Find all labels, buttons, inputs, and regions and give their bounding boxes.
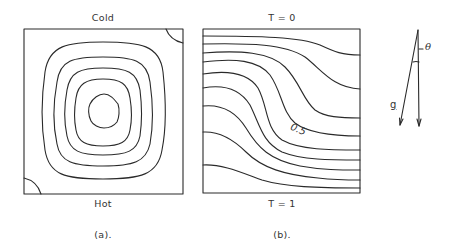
theta-arc [413,62,419,63]
isotherm-5 [203,72,360,150]
panel-a-top-label: Cold [92,12,114,23]
theta-label: θ [425,41,431,52]
figure-svg [0,0,449,251]
panel-b-frame [203,29,360,193]
isotherm-3 [203,52,360,118]
streamline-4 [75,79,132,146]
panel-b-isotherms [203,29,360,193]
panel-a-bottom-label: Hot [94,198,112,209]
isotherm-4-0.5 [203,60,360,136]
gravity-label: g [390,99,396,110]
gravity-diagram [400,30,424,126]
isotherm-2 [203,44,360,89]
corner-cell-bottom-left [24,178,41,194]
streamline-3 [65,68,142,155]
panel-a-frame [24,29,183,194]
panel-a-caption: (a). [94,229,111,240]
panel-b-bottom-label: T = 1 [268,198,295,209]
panel-a-streamlines [24,29,183,194]
streamline-core [89,94,119,128]
panel-b-caption: (b). [273,229,291,240]
figure: Cold Hot (a). T = 0 T = 1 (b). 0.5 θ g [0,0,449,251]
panel-b-top-label: T = 0 [268,12,295,23]
isotherm-6 [203,87,360,160]
corner-cell-top-right [166,29,183,43]
streamline-1 [42,42,165,179]
streamline-2 [54,57,152,166]
isotherm-9 [203,165,360,188]
gravity-vector-line [400,30,418,125]
vertical-axis-line [418,30,419,126]
